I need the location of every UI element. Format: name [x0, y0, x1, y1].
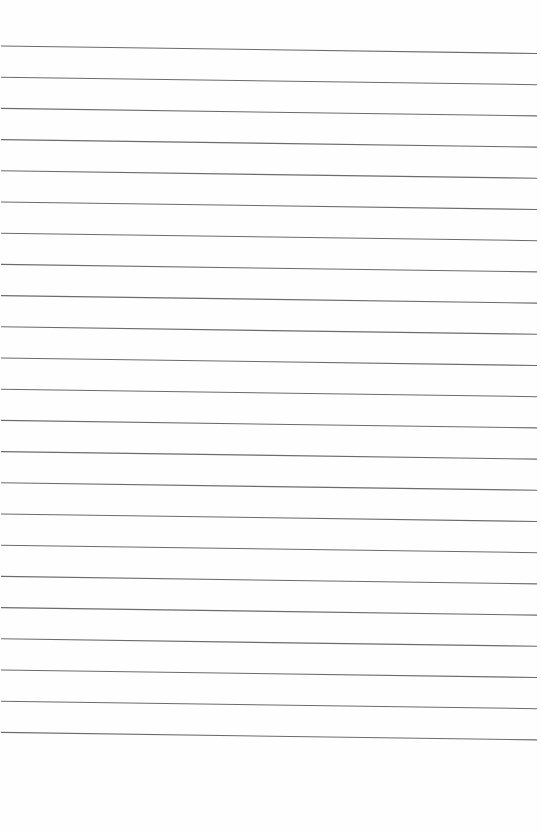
ruled-line	[1, 389, 537, 397]
ruled-line	[1, 452, 537, 460]
ruled-line	[1, 108, 537, 116]
ruled-line	[1, 264, 537, 272]
ruled-line	[1, 545, 537, 553]
lined-paper-page	[0, 0, 541, 832]
ruled-lines	[0, 0, 541, 832]
ruled-line	[1, 46, 537, 54]
ruled-line	[1, 483, 537, 491]
ruled-line	[1, 77, 537, 85]
ruled-line	[1, 514, 537, 522]
ruled-line	[1, 202, 537, 210]
ruled-line	[1, 732, 537, 740]
ruled-line	[1, 233, 537, 241]
ruled-line	[1, 608, 537, 616]
ruled-line	[1, 327, 537, 335]
ruled-line	[1, 701, 537, 709]
ruled-line	[1, 140, 537, 148]
ruled-line	[1, 639, 537, 647]
ruled-line	[1, 420, 537, 428]
ruled-line	[1, 296, 537, 304]
ruled-line	[1, 171, 537, 179]
ruled-line	[1, 358, 537, 366]
ruled-line	[1, 670, 537, 678]
ruled-line	[1, 576, 537, 584]
